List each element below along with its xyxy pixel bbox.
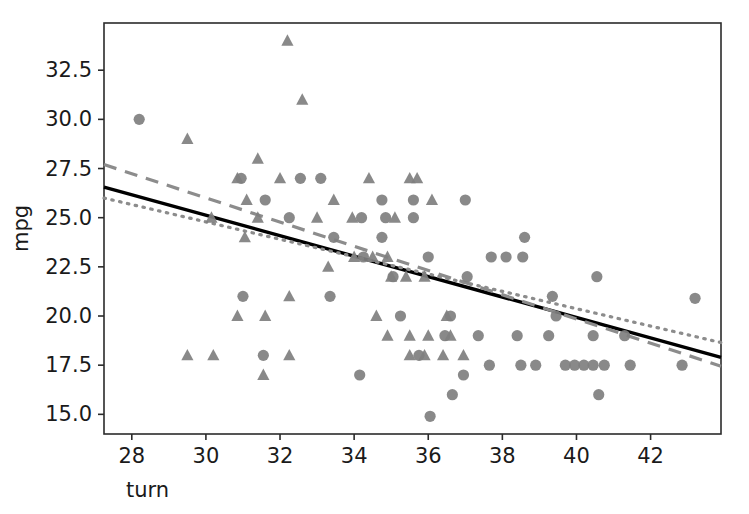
data-point-circle xyxy=(512,330,523,341)
data-point-circle xyxy=(515,360,526,371)
data-point-circle xyxy=(588,360,599,371)
y-tick-label: 22.5 xyxy=(45,255,92,279)
y-tick-label: 27.5 xyxy=(45,157,92,181)
scatter-plot: 283032343638404215.017.520.022.525.027.5… xyxy=(0,0,749,514)
data-point-circle xyxy=(473,330,484,341)
data-point-circle xyxy=(625,360,636,371)
x-tick-label: 42 xyxy=(637,444,664,468)
data-point-circle xyxy=(462,271,473,282)
data-point-circle xyxy=(376,232,387,243)
data-point-circle xyxy=(591,271,602,282)
x-tick-label: 28 xyxy=(118,444,145,468)
data-point-circle xyxy=(547,291,558,302)
data-point-circle xyxy=(689,293,700,304)
data-point-circle xyxy=(258,350,269,361)
data-point-circle xyxy=(408,212,419,223)
data-point-circle xyxy=(486,251,497,262)
data-point-circle xyxy=(284,212,295,223)
data-point-circle xyxy=(500,251,511,262)
data-point-circle xyxy=(517,251,528,262)
data-point-circle xyxy=(237,291,248,302)
data-point-circle xyxy=(593,389,604,400)
y-axis-title: mpg xyxy=(9,205,33,252)
data-point-circle xyxy=(519,232,530,243)
data-point-circle xyxy=(599,360,610,371)
x-tick-label: 34 xyxy=(341,444,368,468)
data-point-circle xyxy=(460,194,471,205)
data-point-circle xyxy=(324,291,335,302)
data-point-circle xyxy=(676,360,687,371)
data-point-circle xyxy=(395,310,406,321)
data-point-circle xyxy=(530,360,541,371)
x-tick-label: 40 xyxy=(563,444,590,468)
data-point-circle xyxy=(447,389,458,400)
x-tick-label: 36 xyxy=(415,444,442,468)
data-point-circle xyxy=(295,173,306,184)
data-point-circle xyxy=(354,369,365,380)
data-point-circle xyxy=(484,360,495,371)
data-point-circle xyxy=(543,330,554,341)
y-tick-label: 30.0 xyxy=(45,107,92,131)
data-point-circle xyxy=(458,369,469,380)
data-point-circle xyxy=(134,114,145,125)
data-point-circle xyxy=(376,194,387,205)
x-axis-title: turn xyxy=(126,478,169,502)
x-tick-label: 32 xyxy=(267,444,294,468)
y-tick-label: 25.0 xyxy=(45,206,92,230)
data-point-circle xyxy=(550,310,561,321)
data-point-circle xyxy=(408,194,419,205)
y-tick-label: 17.5 xyxy=(45,353,92,377)
chart-page: 283032343638404215.017.520.022.525.027.5… xyxy=(0,0,749,514)
data-point-circle xyxy=(425,411,436,422)
data-point-circle xyxy=(260,194,271,205)
data-point-circle xyxy=(315,173,326,184)
x-tick-label: 38 xyxy=(489,444,516,468)
data-point-circle xyxy=(423,251,434,262)
y-tick-label: 15.0 xyxy=(45,402,92,426)
y-tick-label: 32.5 xyxy=(45,58,92,82)
data-point-circle xyxy=(619,330,630,341)
y-tick-label: 20.0 xyxy=(45,304,92,328)
x-tick-label: 30 xyxy=(193,444,220,468)
data-point-circle xyxy=(588,330,599,341)
data-point-circle xyxy=(328,232,339,243)
